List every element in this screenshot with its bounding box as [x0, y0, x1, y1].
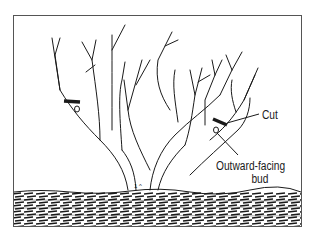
ground-soil: [14, 187, 301, 226]
bud-label-line1: Outward-facing: [216, 160, 285, 173]
left-cut-mark: [64, 101, 80, 102]
cut-label: Cut: [262, 109, 278, 122]
svg-text:1 ^: 1 ^: [134, 183, 142, 189]
outward-facing-bud-label: Outward-facing bud: [216, 160, 285, 186]
pruning-diagram: 1 ^ Cut Outward-facing bud: [0, 0, 316, 241]
bud-label-line2: bud: [216, 173, 285, 186]
